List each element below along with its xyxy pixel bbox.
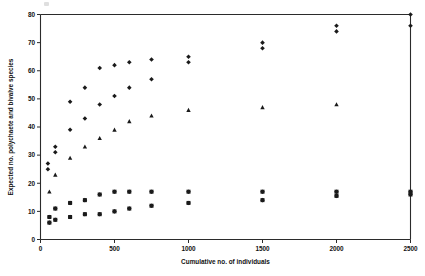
y-tick-label: 20: [28, 180, 36, 187]
data-point-diamond: [97, 66, 102, 71]
y-tick-label: 0: [31, 236, 35, 243]
data-point-diamond: [97, 102, 102, 107]
data-point-diamond: [127, 85, 132, 90]
x-tick-label: 2000: [329, 245, 344, 252]
data-point-square: [98, 193, 102, 197]
data-point-diamond: [46, 167, 51, 172]
y-tick-label: 10: [28, 208, 36, 215]
data-point-square: [127, 207, 131, 211]
data-point-triangle: [112, 128, 116, 132]
data-point-square: [47, 221, 51, 225]
data-point-square: [83, 212, 87, 216]
data-point-triangle: [47, 189, 51, 193]
x-tick-label: 0: [39, 245, 43, 252]
data-point-diamond: [112, 94, 117, 99]
x-tick-label: 1500: [255, 245, 270, 252]
y-tick-label: 60: [28, 67, 36, 74]
data-point-diamond: [46, 161, 51, 166]
data-point-square: [113, 209, 117, 213]
data-point-diamond: [260, 40, 265, 45]
data-point-square: [261, 198, 265, 202]
data-point-diamond: [260, 46, 265, 51]
data-point-square: [409, 193, 413, 197]
data-point-diamond: [408, 12, 413, 17]
data-point-diamond: [186, 54, 191, 59]
x-axis-ticks: 05001000150020002500: [39, 240, 418, 253]
data-points-group: [46, 12, 413, 225]
data-point-diamond: [149, 77, 154, 82]
data-point-square: [68, 215, 72, 219]
data-point-square: [98, 212, 102, 216]
data-point-square: [261, 190, 265, 194]
axes-group: [41, 15, 411, 240]
data-point-diamond: [112, 63, 117, 68]
data-point-square: [127, 190, 131, 194]
data-point-triangle: [127, 119, 131, 123]
y-tick-label: 40: [28, 123, 36, 130]
data-point-diamond: [83, 85, 88, 90]
axis-titles-group: Cumulative no. of individualsExpected no…: [7, 58, 270, 264]
data-point-diamond: [53, 144, 58, 149]
data-point-square: [187, 201, 191, 205]
data-point-square: [150, 204, 154, 208]
y-tick-label: 70: [28, 39, 36, 46]
data-point-diamond: [186, 60, 191, 65]
data-point-diamond: [68, 99, 73, 104]
data-point-square: [335, 194, 339, 198]
chart-canvas: 05001000150020002500 01020304050607080 C…: [0, 0, 425, 276]
data-point-diamond: [53, 150, 58, 155]
y-tick-label: 30: [28, 151, 36, 158]
data-point-triangle: [334, 102, 338, 106]
data-point-square: [68, 201, 72, 205]
data-point-diamond: [334, 23, 339, 28]
data-point-square: [113, 190, 117, 194]
chart-figure: 05001000150020002500 01020304050607080 C…: [0, 0, 425, 276]
data-point-triangle: [186, 108, 190, 112]
data-point-diamond: [83, 116, 88, 121]
data-point-square: [335, 190, 339, 194]
x-tick-label: 1000: [181, 245, 196, 252]
y-tick-label: 80: [28, 11, 36, 18]
square-series: [47, 190, 412, 225]
data-point-square: [53, 218, 57, 222]
data-point-square: [47, 215, 51, 219]
data-point-triangle: [149, 113, 153, 117]
data-point-triangle: [83, 144, 87, 148]
data-point-square: [187, 190, 191, 194]
data-point-diamond: [408, 23, 413, 28]
data-point-diamond: [149, 57, 154, 62]
data-point-triangle: [260, 105, 264, 109]
data-point-diamond: [127, 60, 132, 65]
data-point-diamond: [68, 128, 73, 133]
x-axis-title: Cumulative no. of individuals: [181, 258, 270, 265]
x-tick-label: 500: [109, 245, 120, 252]
y-tick-label: 50: [28, 95, 36, 102]
x-tick-label: 2500: [403, 245, 418, 252]
data-point-square: [83, 198, 87, 202]
data-point-square: [150, 190, 154, 194]
y-axis-title: Expected no. polychaete and bivalve spec…: [7, 58, 15, 195]
triangle-series: [47, 102, 338, 193]
scatter-plot: 05001000150020002500 01020304050607080 C…: [0, 0, 425, 276]
data-point-triangle: [68, 156, 72, 160]
data-point-square: [53, 207, 57, 211]
data-point-triangle: [98, 136, 102, 140]
y-axis-ticks: 01020304050607080: [28, 11, 41, 243]
data-point-diamond: [334, 29, 339, 34]
data-point-triangle: [53, 173, 57, 177]
